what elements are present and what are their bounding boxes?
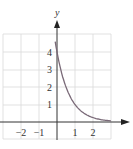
y-tick-label: 2 [47, 82, 52, 93]
x-tick-label: 2 [91, 127, 96, 138]
y-tick-label: 1 [47, 99, 52, 110]
y-axis-arrow-icon [54, 20, 60, 28]
x-tick-labels: −2 −1 1 2 [16, 127, 96, 138]
y-axis-label: y [54, 7, 60, 18]
chart-canvas: y −2 −1 1 2 1 2 3 4 [0, 0, 133, 149]
y-tick-label: 3 [47, 64, 52, 75]
y-tick-label: 4 [47, 47, 52, 58]
x-tick-label: −1 [34, 127, 45, 138]
x-tick-label: −2 [16, 127, 27, 138]
x-tick-label: 1 [73, 127, 78, 138]
x-axis-arrow-icon [121, 119, 130, 125]
exponential-decay-curve [55, 42, 111, 121]
x-axis [0, 119, 130, 125]
y-tick-labels: 1 2 3 4 [47, 47, 52, 110]
